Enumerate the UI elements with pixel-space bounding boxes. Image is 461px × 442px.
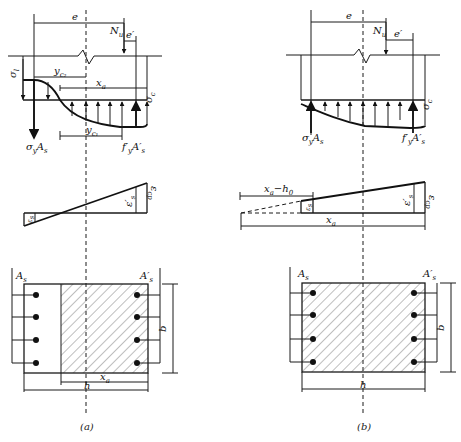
label-eps-s-prime-a: ε′s: [123, 195, 137, 207]
rebar-As-prime-b-1: [411, 290, 417, 296]
rebar-As-3: [33, 337, 39, 343]
strain-diagram-a: εs ε′s εcp: [24, 183, 160, 226]
label-xa: xa: [96, 77, 106, 91]
label-eps-cp-b: εcp: [424, 195, 438, 209]
axial-load-Nu-a: Nu: [109, 23, 124, 53]
rebar-As-prime-b-4: [411, 359, 417, 365]
label-e-b: e: [346, 10, 352, 21]
label-fy-As-b: f′yA′s: [401, 132, 425, 146]
label-e-prime-b: e′: [394, 28, 403, 39]
label-sigma-l: σl: [7, 69, 21, 78]
label-sigma-y-As-b: σyAs: [302, 132, 324, 146]
rebar-As-b-4: [310, 359, 316, 365]
label-h-a: h: [84, 380, 90, 391]
label-b-b: b: [435, 325, 446, 331]
label-e-prime: e′: [126, 29, 135, 40]
rebar-As-prime-2: [134, 314, 140, 320]
label-As-a: As: [15, 270, 27, 284]
eccentric-compression-diagram: e Nu e′: [0, 0, 461, 442]
label-sigma-c-b: σc: [420, 99, 434, 110]
label-Nu-b: Nu: [372, 25, 387, 39]
caption-a: (a): [80, 421, 94, 432]
panel-b: e Nu e′ σc: [240, 10, 456, 432]
label-sigma-y-As-a: σyAs: [26, 141, 48, 155]
rebar-As-b-3: [310, 336, 316, 342]
strain-diagram-b: xa−h0 εs ε′s εcp xa: [240, 182, 438, 230]
xa-dimension-a: xa: [60, 77, 147, 91]
rebar-As-b-2: [310, 312, 316, 318]
rebar-As-prime-b-2: [411, 312, 417, 318]
panel-a: e Nu e′: [7, 10, 178, 432]
label-h-b: h: [360, 379, 366, 390]
cross-section-b: As A′s b: [290, 267, 456, 392]
rebar-As-4: [33, 360, 39, 366]
rebar-As-2: [33, 314, 39, 320]
cross-section-a: As A′s b: [12, 268, 178, 392]
label-e: e: [72, 11, 78, 22]
label-sigma-c: σc: [143, 92, 157, 103]
label-As-prime-a: A′s: [139, 270, 154, 284]
eccentricity-prime-dimension-a: e′: [124, 29, 136, 125]
label-eps-s-prime-b: ε′s: [401, 194, 415, 206]
axial-load-Nu-b: Nu: [372, 22, 387, 54]
label-xa-h0: xa−h0: [264, 183, 294, 197]
rebar-As-prime-4: [134, 360, 140, 366]
caption-b: (b): [357, 421, 371, 432]
yc2-dimension-a: yc₂: [34, 65, 86, 79]
rebar-As-prime-1: [134, 292, 140, 298]
label-eps-cp-a: εcp: [146, 186, 160, 200]
member-break-line-a: [8, 50, 162, 64]
rebar-As-prime-b-3: [411, 336, 417, 342]
stress-block-b: σc: [301, 55, 434, 133]
rebar-As-b-1: [310, 290, 316, 296]
label-As-prime-b: A′s: [422, 268, 437, 282]
rebar-As-prime-3: [134, 337, 140, 343]
stress-block-a: σl σc: [7, 56, 157, 138]
label-As-b: As: [297, 268, 309, 282]
label-b-a: b: [157, 326, 168, 332]
label-Nu: Nu: [109, 25, 124, 39]
label-fy-As-a: f′yA′s: [121, 141, 145, 155]
rebar-As-1: [33, 292, 39, 298]
